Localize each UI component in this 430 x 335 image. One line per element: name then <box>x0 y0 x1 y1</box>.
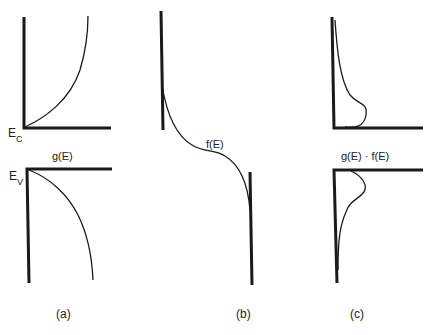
caption-b: (b) <box>236 307 251 321</box>
panel-a: E C g(E) E V (a) <box>8 16 112 321</box>
ev-label: E <box>9 169 17 183</box>
ec-label: E <box>8 126 16 140</box>
g-of-e-label: g(E) <box>52 150 73 162</box>
electron-axis <box>332 17 423 128</box>
gf-label: g(E) · f(E) <box>341 150 389 162</box>
ec-subscript: C <box>16 134 23 144</box>
caption-a: (a) <box>56 307 71 321</box>
caption-c: (c) <box>350 307 364 321</box>
band-diagram: E C g(E) E V (a) f(E) (b) g(E) · f(E) (c… <box>0 0 430 335</box>
conduction-band-axis <box>24 17 111 128</box>
panel-c: g(E) · f(E) (c) <box>332 17 423 321</box>
electron-density-curve <box>335 20 366 127</box>
f-of-e-label: f(E) <box>206 138 224 150</box>
panel-b: f(E) (b) <box>161 11 252 321</box>
hole-axis <box>334 170 423 283</box>
ev-subscript: V <box>17 177 23 187</box>
conduction-dos-curve <box>25 16 88 127</box>
f-axis-top <box>161 11 163 130</box>
valence-band-axis <box>27 169 112 283</box>
hole-density-curve <box>338 171 365 270</box>
f-axis-bottom <box>250 172 252 285</box>
valence-dos-curve <box>29 170 93 280</box>
